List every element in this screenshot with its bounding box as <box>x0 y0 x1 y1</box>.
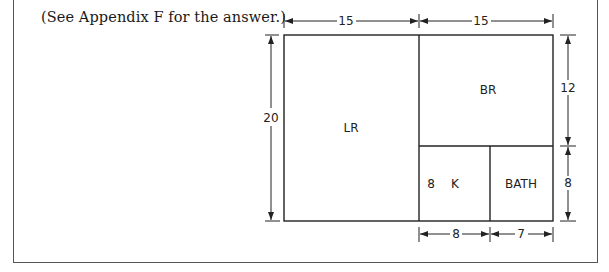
dim-right-lower: 8 <box>564 176 572 190</box>
dim-left-height: 20 <box>263 111 278 125</box>
kitchen-height-label: 8 <box>427 177 435 191</box>
room-label-br: BR <box>480 83 497 97</box>
right-dimension-lines <box>560 35 576 221</box>
dim-top-right: 15 <box>473 14 488 28</box>
top-dimension-lines <box>284 14 553 28</box>
floor-plan-diagram: 15 15 20 12 8 8 7 LR BR 8 K BATH <box>0 0 609 272</box>
room-label-bath: BATH <box>505 177 537 191</box>
dim-bottom-kitchen: 8 <box>452 227 460 241</box>
room-label-k: K <box>451 177 460 191</box>
room-label-lr: LR <box>343 121 358 135</box>
room-walls <box>284 35 553 221</box>
dim-bottom-bath: 7 <box>517 227 525 241</box>
bottom-dimension-lines <box>419 227 553 242</box>
left-dimension-lines <box>265 35 280 221</box>
dim-top-left: 15 <box>338 14 353 28</box>
dim-right-upper: 12 <box>560 81 575 95</box>
